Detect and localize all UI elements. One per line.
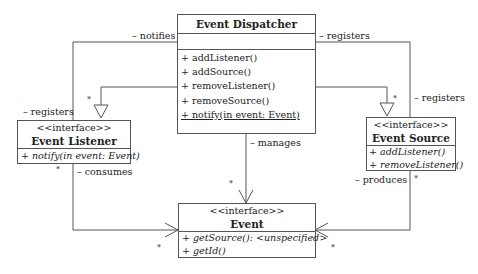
registers-association	[315, 42, 410, 117]
produces-label: – produces	[355, 174, 407, 185]
hollow-triangle-arrow-listener	[94, 105, 108, 118]
event-interface[interactable]: <<interface>> Event + getSource(): <unsp…	[178, 203, 316, 258]
stereotype: <<interface>>	[367, 119, 455, 131]
stereotype: <<interface>>	[18, 122, 130, 134]
method: + notify(in event: Event)	[178, 108, 315, 122]
registers-label-top-right: – registers	[319, 30, 370, 41]
methods-section: + notify(in event: Event)	[18, 148, 130, 163]
event-dispatcher-class[interactable]: Event Dispatcher + addListener() + addSo…	[177, 14, 316, 134]
class-name: Event Source	[367, 131, 455, 145]
multiplicity-star: *	[331, 244, 335, 252]
method: + removeListener()	[178, 79, 315, 93]
method: + getId()	[179, 245, 315, 258]
multiplicity-star: *	[87, 96, 91, 104]
listener-association	[101, 87, 177, 105]
methods-section: + getSource(): <unspecified> + getId()	[179, 231, 315, 257]
methods-section: + addListener() + removeListener()	[367, 145, 455, 171]
registers-label-right: – registers	[414, 92, 465, 103]
multiplicity-star: *	[157, 244, 161, 252]
manages-label: – manages	[250, 137, 301, 148]
method: + addListener()	[367, 146, 455, 159]
method: + addSource()	[178, 65, 315, 79]
multiplicity-star: *	[56, 166, 60, 174]
hollow-triangle-arrow-source	[380, 103, 394, 116]
event-source-interface[interactable]: <<interface>> Event Source + addListener…	[366, 117, 456, 171]
registers-label-left: – registers	[23, 106, 74, 117]
method: + addListener()	[178, 51, 315, 65]
notifies-label: – notifies	[132, 30, 175, 41]
method: + getSource(): <unspecified>	[179, 232, 315, 245]
multiplicity-star: *	[393, 95, 397, 103]
multiplicity-star: *	[414, 175, 418, 183]
class-name: Event	[179, 217, 315, 231]
notifies-association	[73, 42, 177, 120]
stereotype: <<interface>>	[179, 205, 315, 217]
source-association	[315, 87, 387, 103]
method: + removeListener()	[367, 159, 455, 172]
methods-section: + addListener() + addSource() + removeLi…	[178, 49, 315, 122]
method: + notify(in event: Event)	[18, 149, 130, 163]
class-name: Event Listener	[18, 134, 130, 148]
class-name: Event Dispatcher	[178, 15, 315, 33]
method: + removeSource()	[178, 94, 315, 108]
attributes-section	[178, 33, 315, 49]
multiplicity-star: *	[229, 180, 233, 188]
event-listener-interface[interactable]: <<interface>> Event Listener + notify(in…	[17, 120, 131, 164]
consumes-label: – consumes	[77, 166, 132, 177]
